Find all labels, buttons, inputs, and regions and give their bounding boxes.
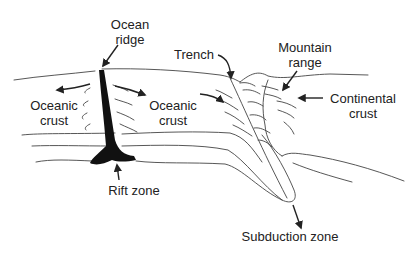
subducting-slab-tip [262, 135, 295, 202]
oceanic-crust-left-arrow [57, 84, 90, 90]
ocean-ridge-arrow [103, 45, 118, 66]
plate-layer-left-1 [22, 133, 115, 135]
label-continental-crust-line1: Continental [325, 91, 401, 106]
subduction-zone-arrow [293, 205, 301, 228]
label-continental-crust: Continental crust [325, 91, 401, 121]
plate-layer-right-1 [122, 132, 262, 162]
label-oceanic-crust-left-line2: crust [24, 113, 84, 128]
label-oceanic-crust-right: Oceanic crust [143, 98, 203, 128]
label-ocean-ridge: Ocean ridge [100, 17, 160, 47]
rift-zone-arrow [117, 165, 119, 180]
label-subduction-zone-text: Subduction zone [238, 229, 342, 244]
continental-lower-2 [293, 163, 352, 182]
label-trench: Trench [172, 47, 216, 62]
label-rift-zone-text: Rift zone [104, 183, 164, 198]
label-continental-crust-line2: crust [325, 106, 401, 121]
deformation-strokes [216, 83, 296, 147]
ocean-surface-left [14, 71, 95, 80]
label-mountain-range-line1: Mountain [270, 40, 340, 55]
label-ocean-ridge-line2: ridge [100, 32, 160, 47]
mountain-range-arrow [283, 71, 297, 90]
label-oceanic-crust-right-line2: crust [143, 113, 203, 128]
label-oceanic-crust-left-line1: Oceanic [24, 98, 84, 113]
label-subduction-zone: Subduction zone [238, 229, 342, 244]
subduction-fault [230, 78, 287, 198]
label-trench-text: Trench [172, 47, 216, 62]
ocean-surface-right [102, 69, 240, 82]
label-rift-zone: Rift zone [104, 183, 164, 198]
label-oceanic-crust-right-line1: Oceanic [143, 98, 203, 113]
label-mountain-range: Mountain range [270, 40, 340, 70]
label-ocean-ridge-line1: Ocean [100, 17, 160, 32]
oceanic-crust-right-arrow [115, 86, 145, 95]
plate-layer-left-3 [36, 160, 92, 162]
plate-tectonics-diagram [0, 0, 417, 256]
label-mountain-range-line2: range [270, 55, 340, 70]
oceanic-subduction-arrow [200, 94, 223, 102]
continental-lower-1 [282, 153, 404, 181]
label-oceanic-crust-left: Oceanic crust [24, 98, 84, 128]
mountain-surface [240, 73, 368, 82]
continental-lower-3 [263, 80, 282, 156]
